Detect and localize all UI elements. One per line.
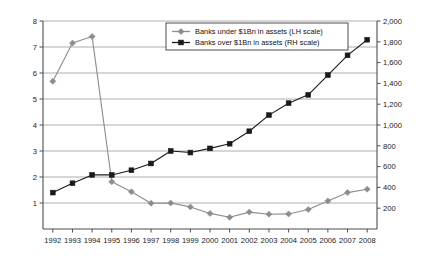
x-axis-tick-label: 1998 <box>162 236 179 245</box>
data-point-marker <box>70 181 75 186</box>
data-point-marker <box>365 37 370 42</box>
data-point-marker <box>168 149 173 154</box>
x-axis-tick-label: 2001 <box>221 236 238 245</box>
data-point-marker <box>247 129 252 134</box>
data-point-marker <box>345 53 350 58</box>
x-axis-tick-label: 1996 <box>123 236 140 245</box>
x-axis-tick-label: 1994 <box>84 236 101 245</box>
right-axis-tick-label: 800 <box>383 142 396 151</box>
data-point-marker <box>188 150 193 155</box>
left-axis-tick-label: 8 <box>33 17 37 26</box>
x-axis: 1992199319941995199619971998199920002001… <box>44 229 375 245</box>
right-axis: 2004006008001,0001,2001,4001,6001,8002,0… <box>377 17 402 213</box>
x-axis-tick-label: 1995 <box>103 236 120 245</box>
data-point-marker <box>109 173 114 178</box>
data-point-marker <box>227 141 232 146</box>
right-axis-tick-label: 1,000 <box>383 121 402 130</box>
line-chart: 123456782004006008001,0001,2001,4001,600… <box>0 0 428 259</box>
right-axis-tick-label: 1,800 <box>383 38 402 47</box>
data-point-marker <box>306 92 311 97</box>
x-axis-tick-label: 2000 <box>202 236 219 245</box>
right-axis-tick-label: 400 <box>383 183 396 192</box>
data-point-marker <box>90 173 95 178</box>
legend-label: Banks under $1Bn in assets (LH scale) <box>195 27 323 36</box>
left-axis-tick-label: 2 <box>33 173 37 182</box>
data-point-marker <box>286 101 291 106</box>
left-axis-tick-label: 4 <box>33 121 37 130</box>
data-point-marker <box>325 73 330 78</box>
x-axis-tick-label: 1999 <box>182 236 199 245</box>
data-point-marker <box>208 146 213 151</box>
data-point-marker <box>50 190 55 195</box>
right-axis-tick-label: 1,200 <box>383 100 402 109</box>
legend-label: Banks over $1Bn in assets (RH scale) <box>195 38 319 47</box>
x-axis-tick-label: 2005 <box>300 236 317 245</box>
x-axis-tick-label: 2007 <box>339 236 356 245</box>
x-axis-tick-label: 2003 <box>260 236 277 245</box>
data-point-marker <box>149 161 154 166</box>
x-axis-tick-label: 1992 <box>44 236 61 245</box>
x-axis-tick-label: 1993 <box>64 236 81 245</box>
left-axis: 12345678 <box>33 17 43 208</box>
right-axis-tick-label: 2,000 <box>383 17 402 26</box>
legend: Banks under $1Bn in assets (LH scale)Ban… <box>166 23 348 50</box>
right-axis-tick-label: 200 <box>383 204 396 213</box>
x-axis-tick-label: 2006 <box>319 236 336 245</box>
data-point-marker <box>129 168 134 173</box>
right-axis-tick-label: 1,400 <box>383 79 402 88</box>
left-axis-tick-label: 1 <box>33 199 37 208</box>
x-axis-tick-label: 1997 <box>143 236 160 245</box>
data-point-marker <box>267 113 272 118</box>
right-axis-tick-label: 1,600 <box>383 58 402 67</box>
x-axis-tick-label: 2008 <box>359 236 376 245</box>
right-axis-tick-label: 600 <box>383 162 396 171</box>
left-axis-tick-label: 6 <box>33 69 37 78</box>
legend-marker <box>179 40 184 45</box>
chart-container: 123456782004006008001,0001,2001,4001,600… <box>0 0 428 259</box>
x-axis-tick-label: 2004 <box>280 236 297 245</box>
left-axis-tick-label: 5 <box>33 95 37 104</box>
left-axis-tick-label: 7 <box>33 43 37 52</box>
x-axis-tick-label: 2002 <box>241 236 258 245</box>
left-axis-tick-label: 3 <box>33 147 37 156</box>
